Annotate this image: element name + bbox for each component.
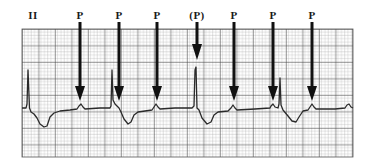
ecg-strip [0, 0, 373, 167]
ecg-grid [22, 29, 353, 157]
